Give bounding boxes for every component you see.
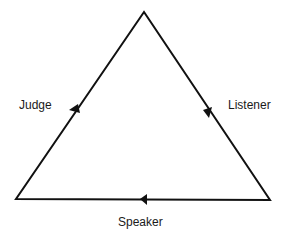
speaker-label: Speaker xyxy=(118,215,163,229)
judge-label: Judge xyxy=(19,98,52,112)
triangle-diagram xyxy=(0,0,292,242)
listener-label: Listener xyxy=(228,98,271,112)
arrow-left-icon xyxy=(140,194,147,205)
arrow-up-icon xyxy=(69,104,80,113)
